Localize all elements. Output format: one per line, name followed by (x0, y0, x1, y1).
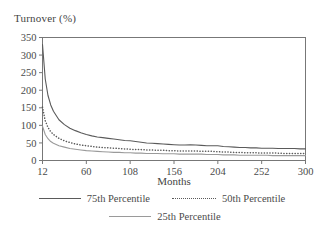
legend-row-top: 75th Percentile 50th Percentile (0, 191, 324, 206)
y-tick-label: 200 (21, 85, 37, 96)
y-tick-label: 250 (21, 67, 37, 78)
legend-line-solid-dark-icon (39, 198, 81, 200)
legend-item-75th[interactable]: 75th Percentile (39, 193, 150, 204)
x-tick-label: 252 (254, 166, 270, 177)
legend-line-solid-light-icon (109, 216, 151, 218)
x-tick-label: 60 (81, 166, 92, 177)
y-tick-label: 100 (21, 120, 37, 131)
legend-line-dotted-icon (172, 198, 216, 200)
y-axis-tick-labels: 050100150200250300350 (21, 32, 37, 166)
chart-figure: Turnover (%) 050100150200250300350 12601… (0, 0, 324, 233)
plot-frame (43, 38, 306, 161)
x-axis-ticks (43, 161, 306, 165)
legend-label-25th: 25th Percentile (157, 211, 220, 222)
x-tick-label: 108 (122, 166, 138, 177)
x-axis-title: Months (157, 175, 191, 187)
y-tick-label: 350 (21, 32, 37, 43)
legend-item-25th[interactable]: 25th Percentile (109, 211, 220, 222)
legend-item-50th[interactable]: 50th Percentile (172, 193, 285, 204)
x-tick-label: 12 (37, 166, 48, 177)
x-tick-label: 204 (210, 166, 227, 177)
legend-label-75th: 75th Percentile (87, 193, 150, 204)
legend-label-50th: 50th Percentile (222, 193, 285, 204)
y-tick-label: 50 (26, 138, 37, 149)
chart-legend: 75th Percentile 50th Percentile 25th Per… (0, 191, 324, 224)
x-tick-label: 300 (298, 166, 314, 177)
y-tick-label: 150 (21, 102, 37, 113)
y-tick-label: 300 (21, 50, 37, 61)
legend-row-bottom: 25th Percentile (0, 209, 324, 224)
y-tick-label: 0 (31, 155, 36, 166)
y-axis-ticks (39, 38, 43, 161)
